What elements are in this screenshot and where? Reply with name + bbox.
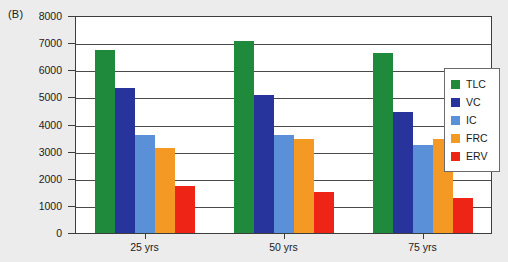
bar-erv-25-yrs bbox=[175, 186, 195, 233]
y-tick-mark bbox=[68, 179, 75, 180]
figure-panel-b: (B) 010002000300040005000600070008000 25… bbox=[0, 0, 508, 262]
y-tick-mark bbox=[68, 152, 75, 153]
bar-frc-50-yrs bbox=[294, 139, 314, 233]
x-tick-label-25-yrs: 25 yrs bbox=[130, 241, 159, 253]
bar-ic-50-yrs bbox=[274, 135, 294, 233]
y-tick-label: 8000 bbox=[39, 10, 62, 22]
bar-vc-50-yrs bbox=[254, 95, 274, 233]
y-tick-label: 2000 bbox=[39, 173, 62, 185]
bar-vc-25-yrs bbox=[115, 88, 135, 233]
bar-tlc-50-yrs bbox=[234, 41, 254, 233]
x-tick-label-50-yrs: 50 yrs bbox=[269, 241, 298, 253]
legend-label: IC bbox=[466, 115, 477, 126]
y-tick-label: 7000 bbox=[39, 37, 62, 49]
x-tick-mark bbox=[423, 233, 424, 239]
legend: TLCVCICFRCERV bbox=[444, 68, 500, 172]
x-tick-mark bbox=[145, 233, 146, 239]
bar-erv-75-yrs bbox=[453, 198, 473, 233]
legend-item-tlc[interactable]: TLC bbox=[451, 75, 494, 93]
y-tick-mark bbox=[68, 97, 75, 98]
legend-swatch-vc-icon bbox=[451, 98, 460, 107]
y-tick-label: 4000 bbox=[39, 119, 62, 131]
bar-frc-25-yrs bbox=[155, 148, 175, 233]
legend-swatch-tlc-icon bbox=[451, 80, 460, 89]
bar-ic-75-yrs bbox=[413, 145, 433, 233]
bar-tlc-75-yrs bbox=[373, 53, 393, 233]
y-tick-mark bbox=[68, 125, 75, 126]
x-tick-mark bbox=[284, 233, 285, 239]
y-tick-label: 3000 bbox=[39, 146, 62, 158]
legend-item-ic[interactable]: IC bbox=[451, 111, 494, 129]
y-tick-mark bbox=[68, 16, 75, 17]
bar-ic-25-yrs bbox=[135, 135, 155, 233]
y-tick-mark bbox=[68, 206, 75, 207]
bar-tlc-25-yrs bbox=[95, 50, 115, 233]
legend-label: ERV bbox=[466, 151, 487, 162]
legend-swatch-ic-icon bbox=[451, 116, 460, 125]
legend-swatch-erv-icon bbox=[451, 152, 460, 161]
y-tick-label: 1000 bbox=[39, 200, 62, 212]
bar-erv-50-yrs bbox=[314, 192, 334, 234]
x-tick-label-75-yrs: 75 yrs bbox=[408, 241, 437, 253]
legend-item-vc[interactable]: VC bbox=[451, 93, 494, 111]
legend-label: VC bbox=[466, 97, 481, 108]
legend-item-frc[interactable]: FRC bbox=[451, 129, 494, 147]
y-tick-mark bbox=[68, 70, 75, 71]
legend-item-erv[interactable]: ERV bbox=[451, 147, 494, 165]
y-tick-label: 0 bbox=[56, 227, 62, 239]
y-tick-label: 5000 bbox=[39, 91, 62, 103]
y-tick-mark bbox=[68, 43, 75, 44]
y-tick-mark bbox=[68, 233, 75, 234]
legend-label: FRC bbox=[466, 133, 488, 144]
legend-label: TLC bbox=[466, 79, 486, 90]
bar-vc-75-yrs bbox=[393, 112, 413, 233]
bars-layer bbox=[75, 16, 492, 233]
y-axis: 010002000300040005000600070008000 bbox=[0, 0, 72, 262]
legend-swatch-frc-icon bbox=[451, 134, 460, 143]
y-tick-label: 6000 bbox=[39, 64, 62, 76]
